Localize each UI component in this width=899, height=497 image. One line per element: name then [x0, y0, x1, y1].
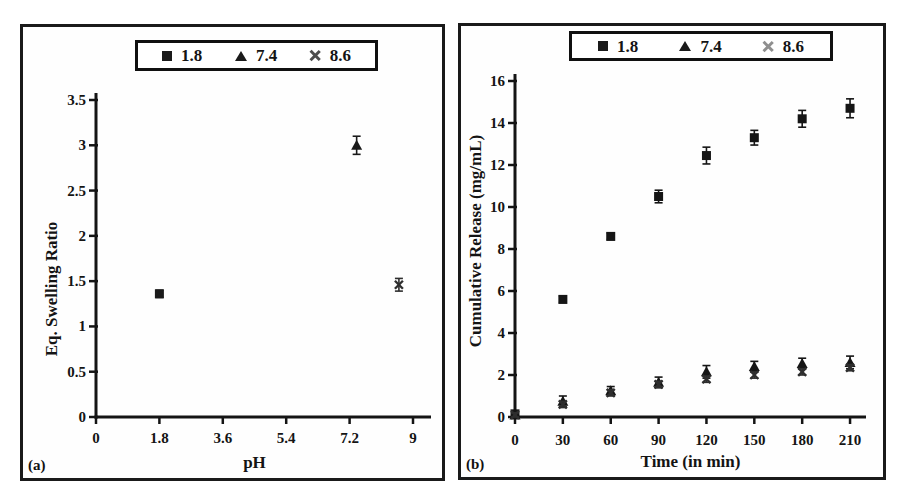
svg-text:180: 180	[791, 432, 814, 448]
legend-label: 8.6	[330, 47, 351, 64]
svg-text:0.5: 0.5	[67, 364, 86, 380]
svg-text:6: 6	[498, 283, 506, 299]
svg-text:3: 3	[79, 137, 87, 153]
svg-text:2.5: 2.5	[67, 183, 86, 199]
panel-label-a: (a)	[28, 457, 46, 474]
svg-text:210: 210	[839, 432, 862, 448]
svg-text:8: 8	[498, 241, 506, 257]
triangle-marker-icon	[679, 41, 691, 51]
svg-text:3.5: 3.5	[67, 92, 86, 108]
svg-text:1: 1	[79, 318, 87, 334]
svg-text:0: 0	[511, 432, 519, 448]
x-marker-icon	[310, 50, 321, 61]
square-marker-icon	[598, 41, 608, 51]
legend-label: 1.8	[181, 47, 202, 64]
svg-text:Eq. Swelling Ratio: Eq. Swelling Ratio	[42, 222, 61, 357]
svg-text:2: 2	[79, 228, 87, 244]
svg-text:120: 120	[695, 432, 718, 448]
svg-text:90: 90	[651, 432, 666, 448]
svg-text:3.6: 3.6	[213, 430, 232, 446]
svg-text:10: 10	[490, 199, 505, 215]
svg-text:60: 60	[603, 432, 618, 448]
svg-text:9: 9	[409, 430, 417, 446]
svg-text:0: 0	[92, 430, 100, 446]
svg-text:2: 2	[498, 367, 506, 383]
legend-item: 8.6	[310, 47, 351, 64]
legend-item: 7.4	[235, 47, 277, 64]
svg-text:30: 30	[555, 432, 570, 448]
legend-item: 7.4	[679, 38, 721, 55]
svg-text:5.4: 5.4	[277, 430, 296, 446]
legend-label: 7.4	[256, 47, 277, 64]
panel-swelling-ratio: 1.8 7.4 8.6 01.83.65.47.2900.511.522.533…	[20, 24, 445, 481]
svg-text:7.2: 7.2	[340, 430, 359, 446]
svg-text:1.5: 1.5	[67, 273, 86, 289]
cumulative-release-chart: 03060901201501802100246810121416Time (in…	[461, 26, 883, 477]
svg-text:14: 14	[490, 115, 506, 131]
triangle-marker-icon	[235, 51, 247, 61]
legend-label: 8.6	[783, 38, 804, 55]
svg-text:Time (in min): Time (in min)	[641, 452, 741, 471]
legend-swelling: 1.8 7.4 8.6	[135, 40, 378, 71]
legend-release: 1.8 7.4 8.6	[569, 31, 833, 61]
svg-text:16: 16	[490, 73, 506, 89]
svg-text:4: 4	[498, 325, 506, 341]
panel-cumulative-release: 1.8 7.4 8.6 0306090120150180210024681012…	[458, 23, 886, 480]
svg-text:0: 0	[498, 409, 506, 425]
legend-item: 8.6	[763, 38, 804, 55]
swelling-ratio-chart: 01.83.65.47.2900.511.522.533.5pHEq. Swel…	[23, 27, 442, 478]
svg-text:pH: pH	[243, 453, 266, 472]
square-marker-icon	[162, 51, 172, 61]
panel-label-b: (b)	[466, 456, 484, 473]
legend-item: 1.8	[162, 47, 202, 64]
x-marker-icon	[763, 41, 774, 52]
svg-text:Cumulative Release (mg/mL): Cumulative Release (mg/mL)	[466, 135, 485, 347]
svg-text:1.8: 1.8	[150, 430, 169, 446]
svg-text:0: 0	[79, 409, 87, 425]
svg-text:150: 150	[743, 432, 766, 448]
legend-label: 1.8	[617, 38, 638, 55]
svg-text:12: 12	[490, 157, 505, 173]
legend-label: 7.4	[700, 38, 721, 55]
legend-item: 1.8	[598, 38, 638, 55]
